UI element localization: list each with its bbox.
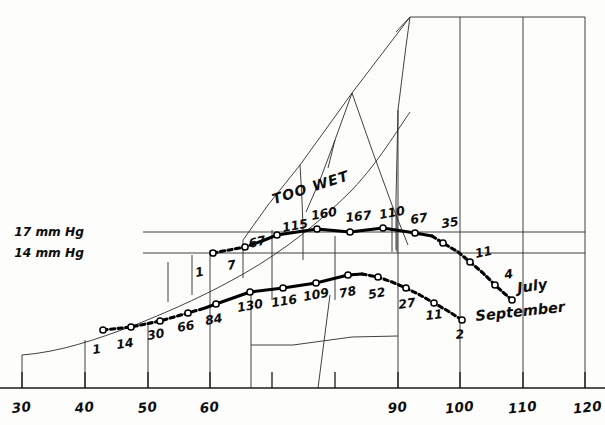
point-label: 110: [378, 203, 406, 222]
data-point: [210, 250, 216, 256]
point-label: 67: [409, 210, 429, 227]
data-point: [128, 324, 134, 330]
point-label: 11: [425, 306, 444, 323]
chart-figure: 30 40 50 60 90 100 110 120: [0, 0, 605, 425]
data-point: [100, 327, 106, 333]
point-label: 78: [338, 283, 358, 301]
data-point: [467, 259, 473, 265]
point-label: 14: [115, 335, 134, 352]
data-point: [280, 285, 286, 291]
point-label: 67: [247, 232, 268, 251]
point-label: 11: [474, 243, 494, 261]
data-point: [492, 282, 498, 288]
vertical-gridlines: [22, 17, 585, 388]
data-point: [459, 317, 465, 323]
point-label: 2: [455, 326, 465, 342]
data-point: [403, 285, 409, 291]
data-point: [157, 318, 163, 324]
point-label: 52: [367, 284, 387, 302]
data-point: [347, 229, 353, 235]
x-axis-ticks: [22, 372, 585, 388]
series-label-july: July: [513, 276, 549, 297]
reference-lines: [143, 232, 585, 253]
chart-canvas: 30 40 50 60 90 100 110 120: [0, 0, 605, 425]
xtick-label-40: 40: [73, 398, 95, 416]
label-14mmHg: 14 mm Hg: [14, 246, 84, 260]
series-label-september: September: [475, 299, 567, 324]
xtick-label-90: 90: [387, 398, 408, 416]
point-label: 30: [146, 325, 166, 343]
data-point: [185, 310, 191, 316]
reference-labels: 17 mm Hg 14 mm Hg: [14, 225, 84, 260]
data-point: [431, 300, 437, 306]
point-label: 109: [302, 285, 330, 304]
fan-line-small: [328, 140, 335, 168]
point-label: 4: [502, 266, 514, 282]
point-label: 160: [310, 204, 338, 223]
point-label: 116: [270, 291, 298, 310]
point-label: 1: [91, 341, 102, 357]
label-17mmHg: 17 mm Hg: [14, 225, 84, 239]
point-label: 130: [236, 296, 264, 315]
data-point: [313, 280, 319, 286]
point-label: 7: [226, 257, 237, 273]
xtick-label-110: 110: [507, 398, 538, 417]
data-point: [247, 289, 253, 295]
data-point: [375, 274, 381, 280]
xtick-label-30: 30: [11, 398, 32, 416]
xtick-label-60: 60: [199, 398, 220, 416]
point-label: 167: [345, 207, 373, 225]
point-label: 35: [440, 214, 459, 231]
data-point: [242, 244, 248, 250]
data-point: [380, 225, 386, 231]
data-point: [274, 232, 280, 238]
data-point: [213, 301, 219, 307]
point-label: 66: [176, 317, 196, 335]
data-point: [509, 297, 515, 303]
data-point: [314, 226, 320, 232]
x-axis: 30 40 50 60 90 100 110 120: [0, 372, 605, 417]
data-point: [440, 240, 446, 246]
point-label: 1: [194, 264, 205, 280]
xtick-label-50: 50: [137, 398, 158, 416]
x-axis-tick-labels: 30 40 50 60 90 100 110 120: [11, 398, 603, 417]
xtick-label-120: 120: [572, 398, 603, 417]
data-point: [345, 272, 351, 278]
july-point-labels: 1 7 67 115 160 167 110 67 35 11 4: [194, 203, 514, 282]
data-point: [412, 230, 418, 236]
point-label: 84: [204, 310, 224, 328]
xtick-label-100: 100: [444, 398, 475, 417]
point-label: 27: [397, 295, 417, 312]
